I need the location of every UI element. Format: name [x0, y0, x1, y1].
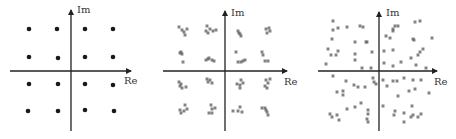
noisy-sample-point — [337, 118, 340, 122]
noisy-sample-point — [399, 60, 402, 64]
noisy-sample-point — [210, 81, 213, 85]
noisy-sample-point — [363, 85, 366, 89]
constellation-point — [56, 82, 61, 87]
noisy-sample-point — [385, 84, 388, 88]
noisy-sample-point — [238, 86, 241, 90]
noisy-sample-point — [331, 19, 334, 23]
noisy-sample-point — [353, 105, 356, 109]
noisy-sample-point — [402, 120, 405, 124]
constellation-point — [27, 27, 32, 32]
noisy-sample-point — [205, 24, 208, 28]
noisy-sample-point — [181, 60, 184, 64]
constellation-point — [111, 83, 116, 88]
noisy-sample-point — [341, 93, 344, 97]
noisy-sample-point — [335, 90, 338, 94]
noisy-sample-point — [382, 49, 385, 53]
noisy-sample-point — [361, 25, 364, 29]
noisy-sample-point — [391, 48, 394, 52]
noisy-sample-point — [366, 108, 369, 112]
noisy-sample-point — [391, 64, 394, 68]
noisy-sample-point — [184, 85, 187, 89]
noisy-sample-point — [392, 113, 395, 117]
constellation-point — [27, 82, 32, 87]
noisy-sample-point — [416, 115, 419, 119]
noisy-sample-point — [185, 27, 188, 31]
noisy-sample-point — [341, 89, 344, 93]
noisy-sample-point — [370, 50, 373, 54]
noisy-sample-point — [231, 109, 234, 113]
constellation-point — [55, 27, 60, 32]
noisy-sample-point — [419, 112, 422, 116]
noisy-sample-point — [239, 78, 242, 82]
constellation-point — [112, 109, 117, 114]
noisy-sample-point — [236, 60, 239, 64]
noisy-sample-point — [268, 77, 271, 81]
noisy-sample-point — [359, 101, 362, 105]
noisy-sample-point — [260, 106, 263, 110]
noisy-sample-point — [240, 110, 243, 114]
constellation-point — [56, 109, 61, 114]
noisy-sample-point — [369, 66, 372, 70]
noisy-sample-point — [210, 111, 213, 115]
real-axis-label: Re — [284, 76, 298, 87]
noisy-sample-point — [424, 66, 427, 70]
constellation-point — [83, 108, 88, 113]
noisy-sample-point — [413, 20, 416, 24]
noisy-sample-point — [214, 28, 217, 32]
noisy-sample-point — [360, 66, 363, 70]
noisy-sample-point — [344, 79, 347, 83]
noisy-sample-point — [430, 36, 433, 40]
noisy-sample-point — [336, 26, 339, 30]
imaginary-axis-label: Im — [231, 7, 245, 18]
noisy-sample-point — [330, 115, 333, 119]
noisy-sample-point — [402, 111, 405, 115]
noisy-sample-point — [391, 79, 394, 83]
noisy-sample-point — [236, 109, 239, 113]
noisy-sample-point — [235, 82, 238, 86]
noisy-sample-point — [264, 78, 267, 82]
noisy-sample-point — [177, 25, 180, 29]
noisy-sample-point — [353, 52, 356, 56]
noisy-sample-point — [324, 62, 327, 66]
noisy-sample-point — [328, 112, 331, 116]
panel-ideal-constellation: Im Re — [10, 4, 138, 131]
noisy-sample-point — [427, 91, 430, 95]
constellation-point — [111, 27, 116, 32]
noisy-sample-point — [329, 53, 332, 57]
noisy-sample-point — [345, 25, 348, 29]
noisy-sample-point — [266, 59, 269, 63]
real-axis-label: Re — [434, 76, 448, 87]
noisy-sample-point — [416, 53, 419, 57]
constellation-point — [83, 82, 88, 87]
noisy-sample-point — [366, 112, 369, 116]
noisy-sample-point — [207, 111, 210, 115]
noisy-sample-point — [331, 28, 334, 32]
noisy-sample-point — [410, 104, 413, 108]
noisy-sample-point — [264, 27, 267, 31]
noisy-sample-point — [345, 107, 348, 111]
noisy-sample-point — [418, 50, 421, 54]
noisy-sample-point — [353, 40, 356, 44]
imaginary-axis-label: Im — [386, 7, 400, 18]
noisy-sample-point — [421, 47, 424, 51]
noisy-sample-point — [326, 47, 329, 51]
constellation-point — [56, 56, 61, 61]
noisy-sample-point — [402, 76, 405, 80]
noisy-sample-point — [234, 50, 237, 54]
noisy-sample-point — [336, 49, 339, 53]
constellation-point — [26, 109, 31, 114]
noisy-sample-point — [358, 24, 361, 28]
noisy-sample-point — [396, 24, 399, 28]
panel-moderate-noise-constellation: Im Re — [163, 7, 298, 131]
constellation-point — [83, 27, 88, 32]
imaginary-axis-label: Im — [77, 4, 91, 15]
real-axis-label: Re — [124, 75, 138, 86]
noisy-sample-point — [419, 78, 422, 82]
noisy-sample-point — [393, 109, 396, 113]
constellation-figure: Im Re Im Re Im Re — [0, 0, 456, 139]
noisy-sample-point — [209, 103, 212, 107]
noisy-sample-point — [330, 37, 333, 41]
noisy-sample-point — [352, 83, 355, 87]
noisy-sample-point — [414, 63, 417, 67]
noisy-sample-point — [381, 104, 384, 108]
